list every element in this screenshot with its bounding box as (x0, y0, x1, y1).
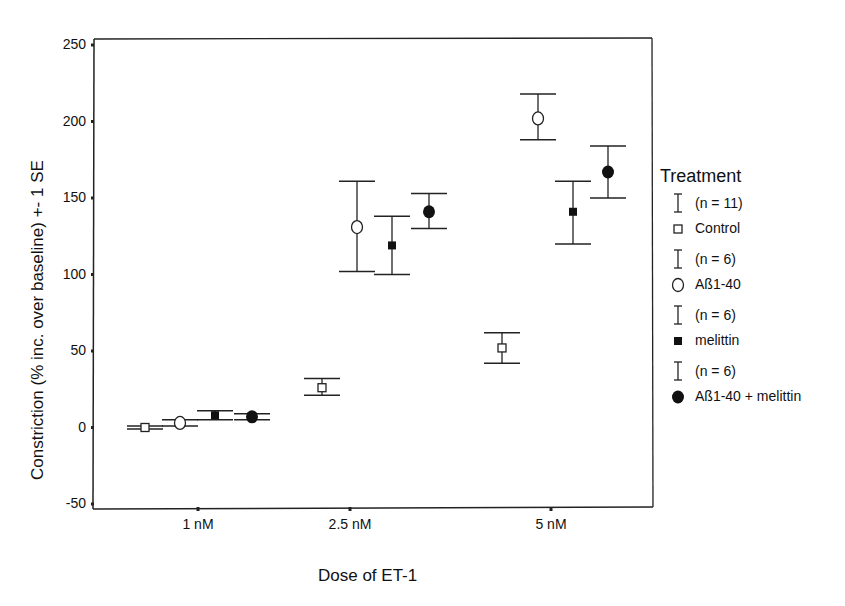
legend-series-label: melittin (695, 332, 739, 348)
legend-marker-open-circle-icon (673, 279, 684, 292)
x-tick-label: 1 nM (158, 516, 238, 532)
chart-plot-area (0, 0, 845, 606)
legend-series-label: Control (695, 220, 740, 236)
y-tick-label: 0 (36, 419, 86, 435)
y-tick-mark (91, 273, 94, 276)
y-tick-mark (91, 503, 94, 506)
data-point-open-circle (533, 112, 544, 125)
y-tick-label: 200 (36, 113, 86, 129)
data-point-filled-circle (246, 410, 258, 423)
legend-n-label: (n = 11) (695, 195, 743, 211)
y-tick-mark (91, 197, 94, 200)
x-axis-label: Dose of ET-1 (318, 566, 417, 586)
x-tick-mark (197, 507, 200, 511)
legend-marker-filled-circle-icon (672, 391, 684, 404)
x-tick-label: 5 nM (511, 516, 591, 532)
legend-marker-open-square-icon (674, 225, 682, 233)
data-point-open-circle (175, 416, 186, 429)
x-tick-mark (550, 507, 553, 511)
x-axis-line (93, 507, 653, 509)
data-point-open-square (498, 344, 506, 352)
legend-n-label: (n = 6) (695, 307, 736, 323)
y-tick-label: 150 (36, 189, 86, 205)
y-tick-label: 250 (36, 36, 86, 52)
data-point-filled-square (569, 208, 577, 216)
data-point-filled-square (388, 241, 396, 249)
y-tick-mark (91, 426, 94, 429)
plot-frame-right (652, 38, 653, 507)
y-tick-label: 100 (36, 266, 86, 282)
x-tick-label: 2.5 nM (310, 516, 390, 532)
data-point-open-square (141, 424, 149, 432)
data-point-filled-square (211, 411, 219, 419)
y-tick-mark (91, 44, 94, 47)
data-point-filled-circle (602, 165, 614, 178)
data-point-filled-circle (423, 205, 435, 218)
y-tick-label: 50 (36, 342, 86, 358)
x-tick-mark (349, 507, 352, 511)
data-point-open-circle (352, 221, 363, 234)
legend-n-label: (n = 6) (695, 251, 736, 267)
y-tick-mark (91, 120, 94, 123)
legend-title: Treatment (660, 166, 741, 187)
legend-marker-filled-square-icon (674, 337, 682, 345)
legend-series-label: Aß1-40 + melittin (695, 388, 801, 404)
plot-frame-top (94, 38, 652, 39)
y-tick-label: -50 (36, 495, 86, 511)
y-tick-mark (91, 350, 94, 353)
legend-n-label: (n = 6) (695, 363, 736, 379)
legend-series-label: Aß1-40 (695, 276, 741, 292)
data-point-open-square (318, 384, 326, 392)
